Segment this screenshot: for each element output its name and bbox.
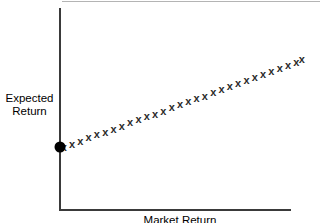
data-point-marker: x bbox=[77, 135, 83, 146]
data-point-marker: x bbox=[235, 78, 241, 89]
x-axis-label: Market Return bbox=[120, 214, 240, 223]
data-point-marker: x bbox=[69, 138, 75, 149]
data-point-marker: x bbox=[210, 86, 216, 97]
data-point-marker: x bbox=[94, 129, 100, 140]
data-point-marker: x bbox=[227, 81, 233, 92]
data-point-marker: x bbox=[119, 120, 125, 131]
data-point-marker: x bbox=[277, 63, 283, 74]
data-point-marker: x bbox=[152, 108, 158, 119]
data-point-marker: x bbox=[285, 60, 291, 71]
data-point-marker: x bbox=[299, 53, 305, 64]
data-point-marker: x bbox=[194, 93, 200, 104]
data-point-marker: x bbox=[185, 96, 191, 107]
data-point-marker: x bbox=[127, 117, 133, 128]
scatter-plot-area: xxxxxxxxxxxxxxxxxxxxxxxxxxxxxx Expected … bbox=[0, 0, 320, 223]
data-point-marker: x bbox=[243, 75, 249, 86]
data-point-marker: x bbox=[86, 132, 92, 143]
y-axis-line bbox=[59, 8, 61, 211]
data-point-marker: x bbox=[110, 123, 116, 134]
data-point-marker: x bbox=[169, 101, 175, 112]
data-point-marker: x bbox=[102, 126, 108, 137]
data-point-marker: x bbox=[144, 111, 150, 122]
data-point-marker: x bbox=[260, 68, 266, 79]
x-axis-line bbox=[59, 209, 291, 211]
data-point-marker: x bbox=[252, 71, 258, 82]
data-point-marker: x bbox=[202, 90, 208, 101]
data-point-marker: x bbox=[160, 105, 166, 116]
y-axis-label: Expected Return bbox=[2, 92, 57, 118]
data-point-marker: x bbox=[177, 99, 183, 110]
data-point-marker: x bbox=[268, 66, 274, 77]
intercept-dot-marker bbox=[55, 141, 66, 152]
data-point-marker: x bbox=[135, 114, 141, 125]
chart-screenshot: xxxxxxxxxxxxxxxxxxxxxxxxxxxxxx Expected … bbox=[0, 0, 320, 223]
data-point-marker: x bbox=[218, 83, 224, 94]
